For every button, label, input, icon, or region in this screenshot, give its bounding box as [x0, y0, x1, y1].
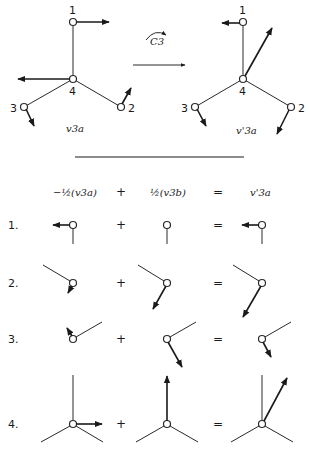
- atom-label-2: 2: [298, 102, 305, 115]
- header-col2: ½(v3b): [150, 187, 186, 198]
- diagram-canvas: 1 2 3 4 v3a C3 1 2 3 4 v'3a −½(v3a) + ½(…: [0, 0, 311, 454]
- row-3: 3. + =: [8, 322, 291, 367]
- atom-label-1: 1: [239, 4, 246, 17]
- vector-arrow-icon: [264, 378, 287, 421]
- decomposition-headers: −½(v3a) + ½(v3b) = v'3a: [53, 185, 271, 199]
- vector-arrow-icon: [245, 28, 272, 76]
- vector-arrow-icon: [243, 286, 261, 317]
- row-4: 4. + =: [8, 375, 293, 442]
- atom-label-3: 3: [10, 102, 17, 115]
- vector-arrow-icon: [168, 342, 182, 367]
- atom-label-4: 4: [239, 85, 246, 98]
- row-index: 2.: [8, 277, 19, 290]
- atom-4: [240, 76, 247, 83]
- c3-operation: C3: [133, 32, 185, 65]
- row-2: 2. + =: [8, 265, 266, 317]
- atom-2: [118, 104, 125, 111]
- header-col1: −½(v3a): [53, 187, 97, 198]
- plus-sign: +: [116, 276, 126, 290]
- left-molecule: 1 2 3 4 v3a: [10, 4, 135, 134]
- atom-4: [70, 76, 77, 83]
- vector-arrow-icon: [277, 110, 289, 134]
- left-molecule-label: v3a: [66, 123, 84, 134]
- atom-label-4: 4: [69, 85, 76, 98]
- vector-arrow-icon: [263, 342, 271, 357]
- row-index: 3.: [8, 333, 19, 346]
- equals-sign: =: [213, 218, 223, 232]
- atom-2: [288, 104, 295, 111]
- vector-arrow-icon: [26, 109, 34, 126]
- plus-sign: +: [116, 218, 126, 232]
- row-index: 1.: [8, 219, 19, 232]
- atom-label-1: 1: [69, 4, 76, 17]
- right-molecule-label: v'3a: [236, 125, 257, 136]
- row-1: 1. + =: [8, 218, 266, 244]
- vector-arrow-icon: [153, 286, 166, 309]
- plus-sign: +: [116, 332, 126, 346]
- vector-arrow-icon: [67, 328, 72, 336]
- atom-label-2: 2: [128, 102, 135, 115]
- header-equals: =: [213, 185, 223, 199]
- equals-sign: =: [213, 276, 223, 290]
- vector-arrow-icon: [68, 286, 72, 293]
- equals-sign: =: [213, 332, 223, 346]
- atom-1: [70, 19, 77, 26]
- atom-1: [240, 19, 247, 26]
- header-col3: v'3a: [250, 187, 271, 198]
- operation-label: C3: [150, 36, 164, 47]
- vector-arrow-icon: [197, 109, 206, 126]
- equals-sign: =: [213, 417, 223, 431]
- row-index: 4.: [8, 418, 19, 431]
- atom-label-3: 3: [181, 102, 188, 115]
- right-molecule: 1 2 3 4 v'3a: [181, 4, 305, 136]
- plus-sign: +: [116, 417, 126, 431]
- header-plus: +: [116, 185, 126, 199]
